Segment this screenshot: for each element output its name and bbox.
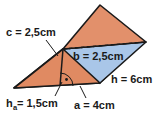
label-a: a = 4cm [74, 99, 115, 111]
label-h: h = 6cm [111, 73, 152, 85]
leader-line-a [80, 86, 86, 98]
label-ha-value: = 1,5cm [17, 97, 58, 109]
label-b: b = 2,5cm [73, 50, 124, 62]
prism-svg: c = 2,5cm b = 2,5cm h = 6cm h a = 1,5cm … [0, 0, 160, 114]
right-angle-dot [65, 78, 68, 81]
label-ha-symbol: h [6, 97, 13, 109]
top-face-orange [63, 5, 146, 49]
geometry-figure: c = 2,5cm b = 2,5cm h = 6cm h a = 1,5cm … [0, 0, 160, 114]
label-c: c = 2,5cm [6, 26, 56, 38]
leader-line-c [46, 40, 58, 56]
label-ha-group: h a = 1,5cm [6, 97, 58, 112]
